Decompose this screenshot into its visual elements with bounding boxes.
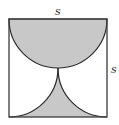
shaded-semicircle: [9, 19, 107, 68]
geometry-diagram: s s: [0, 0, 119, 125]
top-side-label: s: [55, 5, 61, 18]
right-side-label: s: [111, 63, 117, 76]
